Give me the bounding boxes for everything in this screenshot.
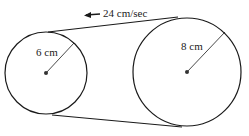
belt-diagram: 24 cm/sec 6 cm 8 cm [0, 0, 249, 136]
large-center-dot [185, 70, 189, 74]
large-radius-label: 8 cm [181, 40, 203, 52]
speed-label: 24 cm/sec [103, 7, 147, 19]
small-radius-label: 6 cm [36, 46, 58, 58]
belt-bottom [52, 115, 182, 127]
arrow-left-icon [84, 12, 100, 18]
small-center-dot [44, 71, 48, 75]
large-radius-line [187, 32, 225, 72]
belt-top [48, 17, 178, 32]
